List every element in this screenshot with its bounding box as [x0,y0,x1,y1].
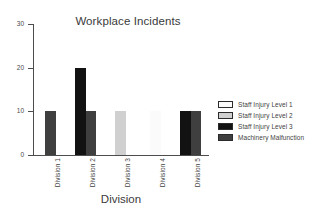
y-tick-label: 20 [0,64,24,71]
chart-legend: Staff Injury Level 1Staff Injury Level 2… [218,99,304,143]
legend-item[interactable]: Staff Injury Level 1 [218,99,304,110]
legend-item-label: Staff Injury Level 2 [238,112,293,119]
legend-item[interactable]: Staff Injury Level 3 [218,121,304,132]
legend-swatch-icon [218,112,233,120]
legend-swatch-icon [218,123,233,131]
legend-item[interactable]: Staff Injury Level 2 [218,110,304,121]
x-axis-category-label: Division 4 [159,158,166,187]
legend-swatch-icon [218,101,233,109]
x-axis-category-label: Division 2 [89,158,96,187]
x-axis-category-label: Division 3 [124,158,131,187]
y-tick-label: 10 [0,107,24,114]
bar-chart: Workplace Incidents 0102030 Division 1Di… [0,0,323,220]
x-axis-category-label: Division 1 [54,158,61,187]
legend-item-label: Staff Injury Level 3 [238,123,293,130]
bar [180,111,191,155]
bar [150,111,161,155]
legend-swatch-icon [218,134,233,142]
legend-item[interactable]: Machinery Malfunction [218,132,304,143]
bar [45,111,56,155]
y-tick-label: 30 [0,20,24,27]
x-axis-title: Division [33,193,209,205]
bar [191,111,202,155]
y-tick-label: 0 [0,151,24,158]
legend-item-label: Staff Injury Level 1 [238,101,293,108]
bar [86,111,97,155]
bar [115,111,126,155]
x-axis-category-label: Division 5 [194,158,201,187]
plot-area [33,24,208,155]
y-tick-mark [28,155,33,156]
legend-item-label: Machinery Malfunction [238,134,304,141]
x-axis-line [33,155,209,156]
bar [75,68,86,155]
